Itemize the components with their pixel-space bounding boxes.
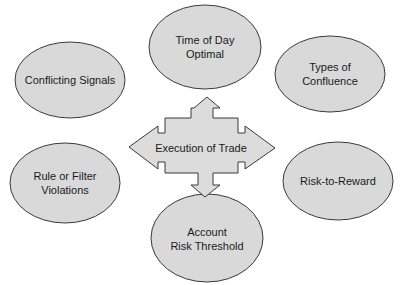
label-line-2: Confluence: [302, 75, 358, 87]
label-line-1: Risk-to-Reward: [300, 175, 376, 187]
node-types-of-confluence: Types of Confluence: [275, 36, 385, 112]
execution-of-trade-diagram: Time of Day Optimal Conflicting Signals …: [0, 0, 401, 285]
node-rule-or-filter-violations: Rule or Filter Violations: [10, 143, 120, 223]
ellipse-rule-filter-violations: [10, 143, 120, 223]
label-line-1: Account: [187, 226, 227, 238]
ellipse-account-risk-threshold: [151, 194, 263, 282]
label-line-1: Types of: [309, 61, 352, 73]
label-line-1: Conflicting Signals: [25, 74, 116, 86]
center-label: Execution of Trade: [155, 142, 247, 154]
label-line-2: Optimal: [186, 48, 224, 60]
ellipse-types-of-confluence: [275, 36, 385, 112]
label-line-2: Violations: [41, 184, 89, 196]
ellipse-time-of-day: [149, 5, 261, 89]
node-conflicting-signals: Conflicting Signals: [15, 42, 125, 118]
node-time-of-day-optimal: Time of Day Optimal: [149, 5, 261, 89]
label-line-1: Rule or Filter: [34, 170, 97, 182]
label-line-2: Risk Threshold: [170, 240, 243, 252]
node-account-risk-threshold: Account Risk Threshold: [151, 194, 263, 282]
node-risk-to-reward: Risk-to-Reward: [283, 142, 393, 220]
center-four-way-arrow: Execution of Trade: [129, 97, 275, 197]
label-line-1: Time of Day: [176, 34, 235, 46]
